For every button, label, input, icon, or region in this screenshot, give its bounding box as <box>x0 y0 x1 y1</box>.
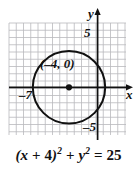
center-coordinate-label: (–4, 0) <box>40 57 75 70</box>
equation-caption: (x + 4)2 + y2 = 25 <box>0 146 137 164</box>
y-axis-tick-label-5: 5 <box>84 26 91 39</box>
y-axis-tick-label-neg5: –5 <box>83 120 96 133</box>
center-point-marker <box>66 84 72 90</box>
equation-rhs-25: 25 <box>106 147 121 163</box>
equation-var-x: x <box>21 147 29 163</box>
x-axis-tick-label-neg7: –7 <box>19 88 32 101</box>
circle-graph-figure: (–4, 0) 5 –5 –7 y x (x + 4)2 + y2 = 25 <box>0 0 137 171</box>
grid-background <box>9 23 126 135</box>
x-axis-label: x <box>126 88 133 101</box>
equation-plus-2: + <box>62 147 78 163</box>
y-axis-label: y <box>88 7 94 20</box>
equation-plus-1: + <box>28 147 44 163</box>
equation-constant-4: 4 <box>44 147 52 163</box>
equation-equals: = <box>90 147 106 163</box>
